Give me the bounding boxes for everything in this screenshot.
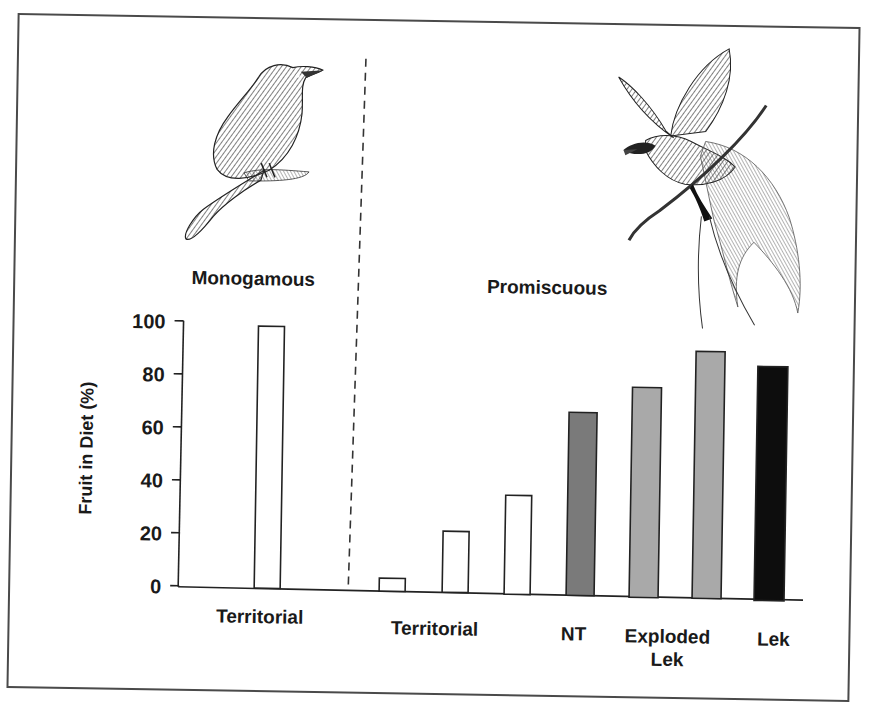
x-label-exploded-lek: Lek bbox=[650, 649, 684, 671]
bar-lek bbox=[754, 366, 788, 600]
y-tick-40: 40 bbox=[140, 469, 163, 491]
bars bbox=[254, 326, 788, 601]
x-label-monogamous-territorial: Territorial bbox=[216, 605, 304, 627]
bar-exploded-lek-1 bbox=[629, 387, 661, 597]
bird-of-paradise-icon bbox=[615, 47, 805, 330]
x-label-exploded: Exploded bbox=[624, 625, 710, 647]
x-label-promiscuous-territorial: Territorial bbox=[391, 617, 479, 639]
x-label-lek: Lek bbox=[757, 628, 791, 650]
figure-frame: Monogamous Promiscuous 100 80 60 40 20 0… bbox=[6, 13, 860, 702]
y-tick-60: 60 bbox=[141, 416, 164, 438]
bar-promiscuous-territorial-2 bbox=[442, 531, 469, 592]
chart-svg: Monogamous Promiscuous 100 80 60 40 20 0… bbox=[0, 0, 870, 719]
bar-nt bbox=[566, 412, 597, 595]
group-label-promiscuous: Promiscuous bbox=[487, 276, 608, 299]
bar-exploded-lek-2 bbox=[692, 351, 725, 598]
y-tick-0: 0 bbox=[150, 575, 161, 597]
bar-promiscuous-territorial-3 bbox=[504, 495, 532, 594]
y-tick-80: 80 bbox=[142, 363, 165, 385]
x-label-nt: NT bbox=[561, 623, 587, 644]
y-axis: 100 80 60 40 20 0 Fruit in Diet (%) bbox=[74, 309, 184, 598]
monogamous-bird-icon bbox=[185, 63, 323, 241]
y-tick-100: 100 bbox=[132, 310, 166, 333]
bar-monogamous-territorial bbox=[254, 326, 284, 588]
group-divider bbox=[348, 59, 366, 591]
bar-promiscuous-territorial-1 bbox=[379, 578, 405, 591]
group-label-monogamous: Monogamous bbox=[191, 267, 315, 290]
y-tick-20: 20 bbox=[140, 522, 163, 544]
y-axis-label: Fruit in Diet (%) bbox=[75, 382, 97, 515]
